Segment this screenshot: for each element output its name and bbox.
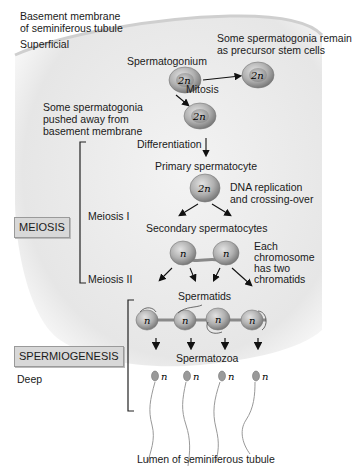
svg-text:n: n [161, 371, 167, 382]
differentiation-label: Differentiation [137, 138, 202, 150]
svg-text:n: n [262, 371, 268, 382]
meiosis-ii-label: Meiosis II [88, 273, 132, 285]
mitosis-label: Mitosis [186, 83, 219, 95]
svg-text:n: n [249, 315, 255, 326]
stem-cells-label-1: Some spermatogonia remain [217, 32, 352, 44]
spermatogonium-label: Spermatogonium [127, 55, 207, 67]
svg-text:2n: 2n [250, 70, 264, 81]
spermatozoa-label: Spermatozoa [176, 352, 238, 364]
pushed-label-3: basement membrane [43, 125, 142, 137]
superficial-label: Superficial [20, 38, 69, 50]
svg-text:n: n [182, 315, 188, 326]
meiosis-box: MEIOSIS [14, 217, 70, 238]
pushed-label-1: Some spermatogonia [43, 101, 143, 113]
spermatozoa [148, 371, 260, 466]
chromatid-label-4: chromatids [254, 273, 305, 285]
dna-replication-label-1: DNA replication [230, 181, 302, 193]
lumen-label: Lumen of seminiferous tubule [137, 453, 275, 465]
svg-text:2n: 2n [197, 183, 211, 194]
svg-text:n: n [180, 248, 186, 259]
basement-membrane-label: Basement membrane [20, 10, 120, 22]
svg-text:n: n [228, 371, 234, 382]
primary-spermatocyte-cell: 2n [190, 174, 220, 202]
svg-text:n: n [144, 315, 150, 326]
svg-text:n: n [193, 371, 199, 382]
dna-replication-label-2: and crossing-over [230, 193, 313, 205]
secondary-spermatocytes-label: Secondary spermatocytes [146, 222, 267, 234]
spermatids-label: Spermatids [178, 290, 231, 302]
stem-cells-label-2: as precursor stem cells [217, 44, 325, 56]
spermiogenesis-box: SPERMIOGENESIS [14, 346, 124, 367]
deep-label: Deep [17, 373, 42, 385]
stem-cell: 2n [242, 62, 274, 88]
primary-spermatocyte-label: Primary spermatocyte [155, 160, 257, 172]
svg-text:n: n [223, 248, 229, 259]
pushed-cell: 2n [184, 103, 216, 129]
meiosis-i-label: Meiosis I [88, 210, 129, 222]
pushed-label-2: pushed away from [43, 113, 129, 125]
basement-membrane-label-2: of seminiferous tubule [20, 22, 123, 34]
svg-text:2n: 2n [192, 111, 206, 122]
svg-text:n: n [215, 314, 221, 325]
